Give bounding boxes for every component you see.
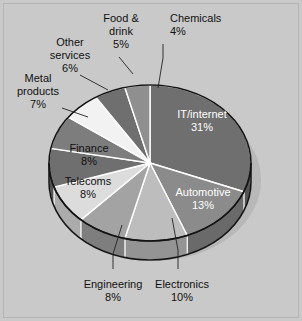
- label-food-drink-line1: Food &: [103, 12, 139, 24]
- label-finance-name: Finance: [69, 142, 108, 154]
- label-electronics-pct: 10%: [171, 291, 193, 303]
- label-it-internet-pct: 31%: [191, 121, 213, 133]
- label-food-drink-pct: 5%: [113, 38, 129, 50]
- label-finance-pct: 8%: [81, 155, 97, 167]
- label-chemicals-name: Chemicals: [170, 12, 222, 24]
- leader-chemicals: [158, 44, 163, 88]
- label-metal-products-line1: Metal: [25, 72, 52, 84]
- label-metal-products-pct: 7%: [30, 98, 46, 110]
- label-automotive-pct: 13%: [192, 199, 214, 211]
- label-other-services-line1: Other: [56, 36, 84, 48]
- label-other-services-line2: services: [50, 49, 91, 61]
- pie-chart-figure: IT/internet 31% Automotive 13% Finance 8…: [0, 0, 302, 321]
- label-other-services-pct: 6%: [62, 62, 78, 74]
- label-metal-products-line2: products: [17, 85, 60, 97]
- pie-chart-svg: IT/internet 31% Automotive 13% Finance 8…: [0, 0, 302, 321]
- label-food-drink-line2: drink: [109, 25, 133, 37]
- pie-chart-canvas: IT/internet 31% Automotive 13% Finance 8…: [0, 0, 302, 321]
- label-engineering-name: Engineering: [84, 278, 143, 290]
- label-engineering-pct: 8%: [105, 291, 121, 303]
- label-telecoms-pct: 8%: [80, 188, 96, 200]
- label-telecoms-name: Telecoms: [65, 175, 112, 187]
- leader-food-drink: [119, 57, 133, 74]
- label-electronics-name: Electronics: [155, 278, 209, 290]
- label-it-internet-name: IT/internet: [177, 108, 227, 120]
- leader-other-services: [80, 75, 108, 90]
- label-chemicals-pct: 4%: [170, 25, 186, 37]
- label-automotive-name: Automotive: [175, 186, 230, 198]
